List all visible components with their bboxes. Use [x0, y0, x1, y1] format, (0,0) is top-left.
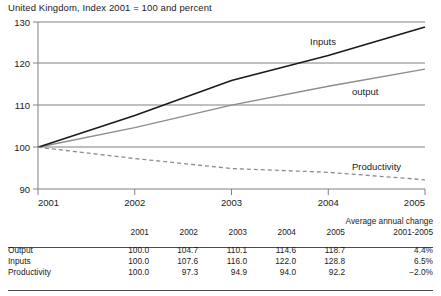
table-body: Output 100.0 104.7 110.1 114.6 118.7 4.4…	[8, 241, 433, 278]
table-header-2003: 2003	[198, 216, 247, 241]
y-axis	[33, 22, 38, 189]
data-table: 2001 2002 2003 2004 2005 Average annual …	[8, 216, 433, 279]
cell-productivity-average: −2.0%	[345, 267, 433, 278]
table-bottom-rule	[8, 290, 433, 291]
table-header-average-annual-change: Average annual change 2001-2005	[345, 216, 433, 241]
xtick-label-2005: 2005	[404, 197, 425, 208]
cell-inputs-average: 6.5%	[345, 256, 433, 267]
series-annotation-inputs: Inputs	[310, 36, 336, 47]
cell-output-average: 4.4%	[345, 241, 433, 256]
average-change-period: 2001-2005	[345, 227, 433, 238]
cell-productivity-2002: 97.3	[149, 267, 198, 278]
chart-plot-area: 130 120 110 100 90 2001 2002 2003 2004 2…	[0, 14, 441, 209]
table-header-2004: 2004	[247, 216, 296, 241]
chart-title: United Kingdom, Index 2001 = 100 and per…	[8, 2, 212, 13]
average-change-title: Average annual change	[345, 216, 433, 227]
table-row: Output 100.0 104.7 110.1 114.6 118.7 4.4…	[8, 241, 433, 256]
series-annotation-output: output	[352, 86, 379, 97]
xtick-label-2003: 2003	[221, 197, 242, 208]
cell-output-2005: 118.7	[296, 241, 345, 256]
cell-productivity-2004: 94.0	[247, 267, 296, 278]
cell-output-2003: 110.1	[198, 241, 247, 256]
cell-productivity-2005: 92.2	[296, 267, 345, 278]
table-header-2005: 2005	[296, 216, 345, 241]
cell-output-2002: 104.7	[149, 241, 198, 256]
cell-output-2004: 114.6	[247, 241, 296, 256]
cell-inputs-2002: 107.6	[149, 256, 198, 267]
row-label-output: Output	[8, 241, 100, 256]
table-row: Productivity 100.0 97.3 94.9 94.0 92.2 −…	[8, 267, 433, 278]
series-annotation-productivity: Productivity	[352, 161, 401, 172]
row-label-productivity: Productivity	[8, 267, 100, 278]
cell-inputs-2001: 100.0	[100, 256, 149, 267]
row-label-inputs: Inputs	[8, 256, 100, 267]
table-row: Inputs 100.0 107.6 116.0 122.0 128.8 6.5…	[8, 256, 433, 267]
cell-productivity-2003: 94.9	[198, 267, 247, 278]
xtick-label-2002: 2002	[124, 197, 145, 208]
xtick-label-2001: 2001	[38, 197, 59, 208]
ytick-label-90: 90	[19, 184, 30, 195]
line-chart-svg: 130 120 110 100 90 2001 2002 2003 2004 2…	[0, 14, 441, 209]
ytick-label-130: 130	[14, 17, 30, 28]
cell-productivity-2001: 100.0	[100, 267, 149, 278]
ytick-label-100: 100	[14, 142, 30, 153]
ytick-label-110: 110	[15, 100, 30, 111]
table-header-row: 2001 2002 2003 2004 2005 Average annual …	[8, 216, 433, 241]
cell-inputs-2005: 128.8	[296, 256, 345, 267]
table-header-blank	[8, 216, 100, 241]
table-head: 2001 2002 2003 2004 2005 Average annual …	[8, 216, 433, 241]
table-header-2002: 2002	[149, 216, 198, 241]
xtick-label-2004: 2004	[318, 197, 339, 208]
table-header-2001: 2001	[100, 216, 149, 241]
x-axis-ticks	[38, 189, 425, 195]
ytick-label-120: 120	[14, 58, 30, 69]
cell-inputs-2004: 122.0	[247, 256, 296, 267]
cell-output-2001: 100.0	[100, 241, 149, 256]
cell-inputs-2003: 116.0	[198, 256, 247, 267]
